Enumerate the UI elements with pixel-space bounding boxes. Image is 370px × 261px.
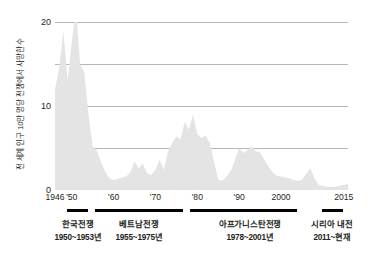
annotation-label-1: 베트남전쟁1955~1975년 bbox=[115, 217, 162, 242]
annotation-label-2: 아프가니스탄전쟁1978~2001년 bbox=[219, 217, 281, 242]
x-tick-1990: '90 bbox=[234, 192, 245, 202]
plot-area bbox=[55, 22, 348, 190]
annotation-bar-1 bbox=[95, 209, 183, 212]
annotation-years-3: 2011~현재 bbox=[311, 230, 352, 242]
annotation-years-2: 1978~2001년 bbox=[219, 230, 281, 242]
x-tick-2015: 2015 bbox=[334, 192, 353, 202]
war-deaths-area bbox=[55, 22, 348, 190]
x-tick-1946: 1946 bbox=[45, 192, 64, 202]
area-chart-svg bbox=[55, 22, 348, 190]
annotation-name-0: 한국전쟁 bbox=[54, 217, 101, 229]
annotation-name-1: 베트남전쟁 bbox=[115, 217, 162, 229]
x-tick-1950: '50 bbox=[66, 192, 77, 202]
annotation-years-0: 1950~1953년 bbox=[54, 230, 101, 242]
x-tick-1980: '80 bbox=[192, 192, 203, 202]
annotation-bar-3 bbox=[322, 209, 343, 212]
annotation-bar-2 bbox=[190, 209, 297, 212]
annotation-name-2: 아프가니스탄전쟁 bbox=[219, 217, 281, 229]
war-deaths-chart-figure: 전 세계 인구 10만 명당 전쟁에서 사망한 수 01020 1946'50'… bbox=[0, 0, 370, 261]
war-annotations: 한국전쟁1950~1953년베트남전쟁1955~1975년아프가니스탄전쟁197… bbox=[0, 205, 370, 261]
x-tick-1970: '70 bbox=[150, 192, 161, 202]
annotation-name-3: 시리아 내전 bbox=[311, 217, 352, 229]
annotation-label-0: 한국전쟁1950~1953년 bbox=[54, 217, 101, 242]
annotation-label-3: 시리아 내전2011~현재 bbox=[311, 217, 352, 242]
y-tick-20: 20 bbox=[29, 17, 51, 27]
annotation-bar-0 bbox=[67, 209, 88, 212]
y-axis-label-text: 전 세계 인구 10만 명당 전쟁에서 사망한 수 bbox=[14, 38, 25, 171]
y-tick-10: 10 bbox=[29, 101, 51, 111]
x-axis-tick-labels: 1946'50'60'70'80'9020002015 bbox=[0, 192, 370, 206]
x-tick-1960: '60 bbox=[108, 192, 119, 202]
annotation-years-1: 1955~1975년 bbox=[115, 230, 162, 242]
x-tick-2000: 2000 bbox=[271, 192, 290, 202]
